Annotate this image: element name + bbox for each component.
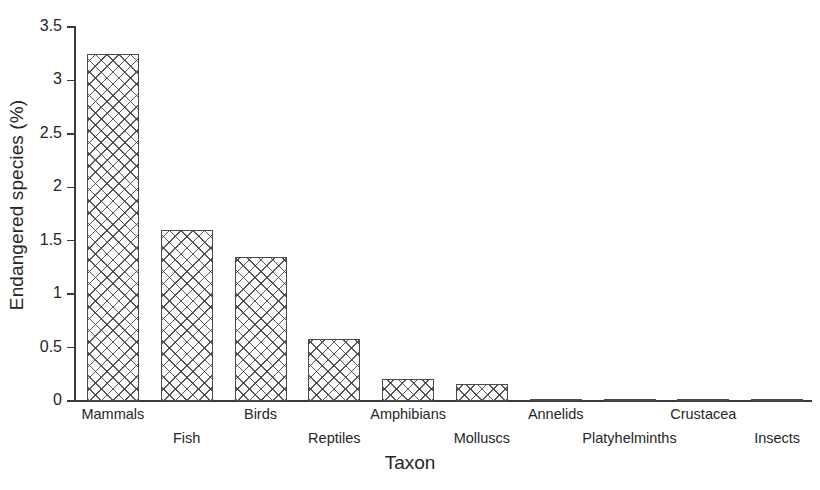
bar-platyhelminths	[604, 399, 656, 401]
x-tick-label-reptiles: Reptiles	[308, 430, 360, 446]
x-axis-title: Taxon	[0, 452, 820, 474]
y-tick-mark	[67, 400, 76, 402]
bar-mammals	[87, 54, 139, 401]
x-tick-label-insects: Insects	[754, 430, 800, 446]
y-tick-mark	[67, 133, 76, 135]
y-tick-mark	[67, 187, 76, 189]
y-tick-mark	[67, 80, 76, 82]
y-tick-label: 3.5	[18, 17, 62, 35]
bar-insects	[751, 399, 803, 401]
bar-fish	[161, 230, 213, 401]
y-tick-label: 1.5	[18, 231, 62, 249]
bar-annelids	[530, 399, 582, 401]
y-axis-line	[74, 26, 76, 402]
y-tick-label: 2.5	[18, 124, 62, 142]
y-tick-mark	[67, 293, 76, 295]
y-tick-label: 0	[18, 391, 62, 409]
bar-crustacea	[677, 399, 729, 401]
bar-amphibians	[382, 379, 434, 401]
x-tick-label-platyhelminths: Platyhelminths	[582, 430, 676, 446]
y-tick-label: 0.5	[18, 338, 62, 356]
x-tick-label-annelids: Annelids	[528, 406, 584, 422]
bar-birds	[235, 257, 287, 401]
y-tick-label: 1	[18, 284, 62, 302]
bar-chart-figure: Endangered species (%) 00.511.522.533.5 …	[0, 0, 820, 490]
x-tick-label-amphibians: Amphibians	[370, 406, 446, 422]
x-tick-label-mammals: Mammals	[81, 406, 144, 422]
bar-molluscs	[456, 384, 508, 401]
y-tick-mark	[67, 26, 76, 28]
bar-reptiles	[308, 339, 360, 401]
x-tick-label-birds: Birds	[244, 406, 277, 422]
y-tick-label: 3	[18, 70, 62, 88]
x-tick-label-molluscs: Molluscs	[454, 430, 510, 446]
x-tick-label-crustacea: Crustacea	[670, 406, 736, 422]
y-tick-mark	[67, 347, 76, 349]
y-tick-mark	[67, 240, 76, 242]
y-tick-label: 2	[18, 177, 62, 195]
x-tick-label-fish: Fish	[173, 430, 200, 446]
